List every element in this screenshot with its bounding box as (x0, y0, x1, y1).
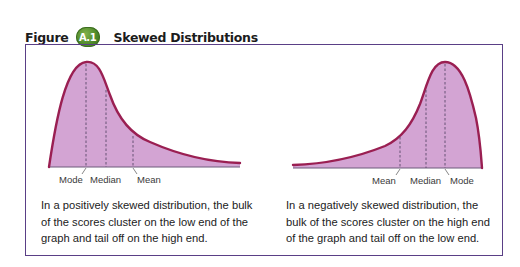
negative-skew-curve (293, 62, 482, 175)
left-mean-label: Mean (137, 174, 161, 185)
positive-skew-curve (49, 62, 240, 174)
right-caption: In a negatively skewed distribution, the… (286, 197, 490, 247)
caption-line: bulk of the scores cluster on the high e… (286, 214, 490, 231)
right-mode-label: Mode (450, 175, 474, 186)
caption-line: of the scores cluster on the low end of … (41, 214, 252, 231)
left-median-label: Median (90, 174, 121, 185)
right-mean-label: Mean (372, 175, 396, 186)
right-median-label: Median (410, 175, 441, 186)
left-mode-label: Mode (59, 174, 83, 185)
caption-line: In a negatively skewed distribution, the (286, 197, 490, 214)
caption-line: of the graph and tail off on the low end… (286, 230, 490, 247)
caption-line: graph and tail off on the high end. (41, 230, 252, 247)
caption-line: In a positively skewed distribution, the… (41, 197, 252, 214)
left-caption: In a positively skewed distribution, the… (41, 197, 252, 247)
